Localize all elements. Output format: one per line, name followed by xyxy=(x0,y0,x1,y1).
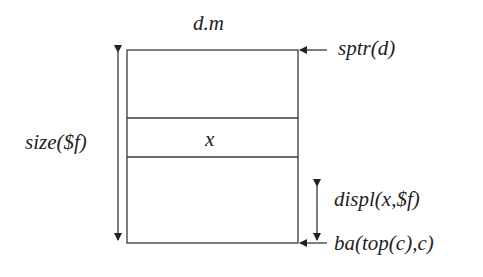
displacement-label: displ(x,$f) xyxy=(334,189,420,210)
cell-label: x xyxy=(205,129,214,150)
base-address-label: ba(top(c),c) xyxy=(334,233,434,254)
frame-title: d.m xyxy=(193,13,224,34)
stack-pointer-label: sptr(d) xyxy=(338,38,395,59)
frame-size-label: size($f) xyxy=(25,132,87,153)
